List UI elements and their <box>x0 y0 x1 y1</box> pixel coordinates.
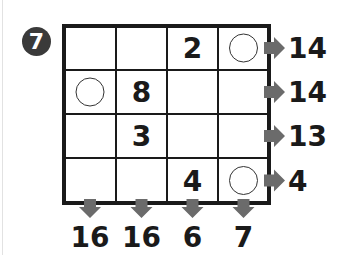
cell-number: 2 <box>183 32 202 65</box>
cell-number: 3 <box>132 120 151 153</box>
grid-cell-r3-c3[interactable] <box>167 114 218 158</box>
column-clue: 16 <box>122 221 161 254</box>
grid-cell-r1-c1[interactable] <box>64 26 116 70</box>
column-clue: 7 <box>234 221 253 254</box>
column-clue: 6 <box>183 221 202 254</box>
cell-number: 4 <box>183 165 202 198</box>
cell-number: 8 <box>132 76 151 109</box>
grid-cell-r4-c4[interactable] <box>218 158 269 203</box>
grid-cell-r3-c4[interactable] <box>218 114 269 158</box>
row-clue: 13 <box>288 120 327 153</box>
grid-cell-r3-c1[interactable] <box>64 114 116 158</box>
row-clue: 4 <box>288 165 307 198</box>
grid-cell-r1-c4[interactable] <box>218 26 269 70</box>
grid-cell-r2-c4[interactable] <box>218 70 269 114</box>
grid-cell-r4-c1[interactable] <box>64 158 116 203</box>
grid-cell-r1-c2[interactable] <box>116 26 167 70</box>
grid-cell-r4-c2[interactable] <box>116 158 167 203</box>
row-clue: 14 <box>288 32 327 65</box>
grid-cell-r2-c3[interactable] <box>167 70 218 114</box>
puzzle-board: 28341414134161667 <box>0 0 342 255</box>
grid-cell-r2-c1[interactable] <box>64 70 116 114</box>
row-clue: 14 <box>288 76 327 109</box>
column-clue: 16 <box>71 221 110 254</box>
